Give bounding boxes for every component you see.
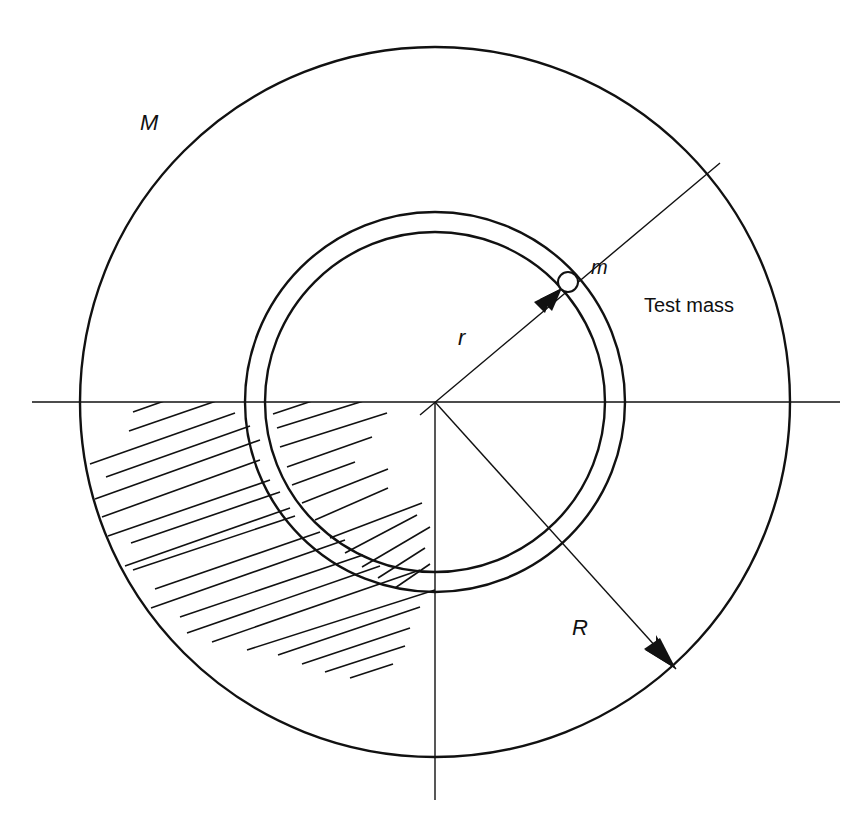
label-radius-R: R [572,615,588,641]
label-radius-r: r [458,325,465,351]
shell-theorem-diagram [0,0,865,821]
label-mass-M: M [140,110,158,136]
label-test-mass-m: m [591,256,608,279]
radius-R-line [435,402,676,669]
test-mass-circle [558,272,578,292]
label-test-mass-caption: Test mass [644,294,734,317]
